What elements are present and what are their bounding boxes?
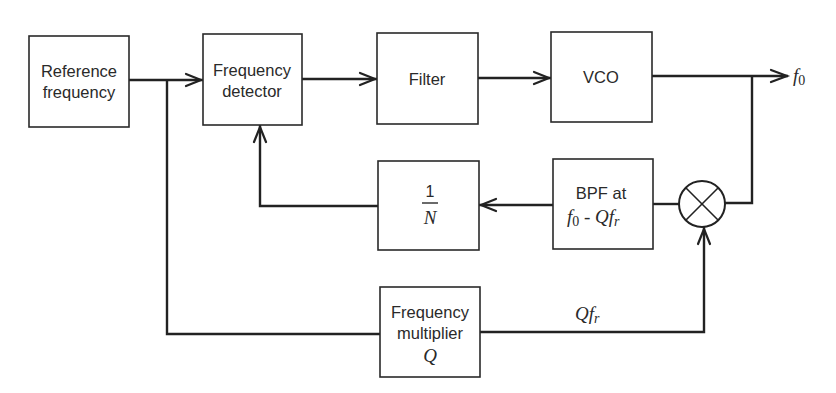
multiplier-label-line2: multiplier [397,324,464,342]
block-filter: Filter [377,33,478,124]
filter-label: Filter [409,70,446,88]
detector-label-line2: detector [222,82,282,100]
wire-divider-to-detector [260,125,378,206]
block-divider-1-over-n: 1 N [378,161,479,250]
divider-denominator: N [423,207,438,228]
divider-numerator: 1 [426,183,435,200]
block-bpf: BPF at f0 - Qfr [553,159,653,249]
block-frequency-detector: Frequency detector [203,34,302,125]
wire-vco-to-mixer [725,76,752,203]
multiplier-label-line1: Frequency [391,303,470,321]
block-vco: VCO [551,32,652,122]
mixer [679,181,725,227]
block-reference-frequency: Reference frequency [29,36,129,127]
reference-label-line2: frequency [43,83,116,101]
block-frequency-multiplier: Frequency multiplier Q [380,287,480,377]
detector-label-line1: Frequency [213,61,292,79]
pll-block-diagram: Reference frequency Frequency detector F… [0,0,836,393]
reference-label-line1: Reference [41,62,117,80]
vco-label: VCO [583,68,619,86]
qfr-signal-label: Qfr [575,303,600,326]
multiplier-label-line3: Q [423,345,437,366]
bpf-label-line1: BPF at [576,184,627,202]
output-signal-label: f0 [793,65,805,88]
